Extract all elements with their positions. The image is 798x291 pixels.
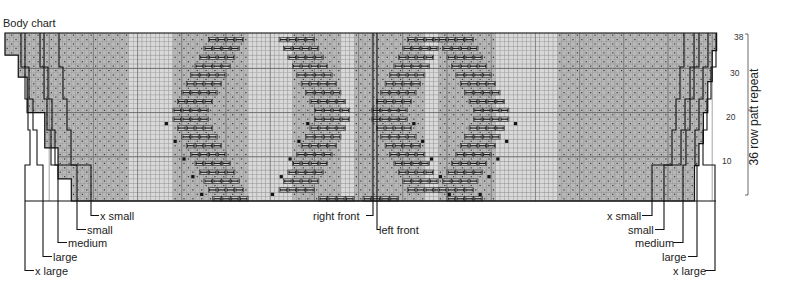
label-right-front: right front <box>313 210 359 222</box>
right-label-x-small: x small <box>607 210 641 222</box>
left-label-small: small <box>87 224 113 236</box>
left-label-x-small: x small <box>100 210 134 222</box>
right-label-large: large <box>662 251 686 263</box>
right-label-medium: medium <box>635 237 674 249</box>
repeat-annotation: 36 row patt repeat <box>747 52 761 182</box>
right-label-small: small <box>628 224 654 236</box>
row-number-38: 38 <box>734 32 743 42</box>
left-label-medium: medium <box>68 237 107 249</box>
left-label-large: large <box>53 251 77 263</box>
row-number-10: 10 <box>722 156 731 166</box>
right-label-x-large: x large <box>673 265 706 277</box>
knitting-chart-grid <box>0 0 798 291</box>
left-label-x-large: x large <box>35 265 68 277</box>
label-left-front: left front <box>379 224 419 236</box>
row-number-20: 20 <box>726 112 735 122</box>
row-number-30: 30 <box>730 68 739 78</box>
